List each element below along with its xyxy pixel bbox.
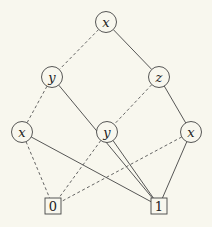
high-edge-n_y_mid-to-t_1 bbox=[113, 141, 153, 198]
decision-node-y: y bbox=[97, 122, 118, 143]
bdd-diagram: xyzxyx01 bbox=[0, 0, 212, 227]
high-edge-n_x_right-to-t_1 bbox=[162, 142, 186, 198]
high-edge-n_x_top-to-n_z_right bbox=[113, 30, 151, 70]
low-edge-n_x_left-to-t_0 bbox=[26, 142, 50, 198]
node-label: x bbox=[18, 125, 26, 140]
nodes-layer: xyzxyx01 bbox=[12, 12, 202, 215]
low-edge-n_x_right-to-t_0 bbox=[61, 137, 182, 202]
low-edge-n_y_mid-to-t_0 bbox=[59, 140, 101, 198]
node-label: y bbox=[102, 125, 111, 140]
terminal-node-1: 1 bbox=[151, 198, 167, 214]
low-edge-n_x_top-to-n_y_left bbox=[59, 29, 98, 69]
decision-node-z: z bbox=[149, 67, 170, 88]
high-edge-n_z_right-to-n_x_right bbox=[164, 86, 185, 123]
node-label: x bbox=[102, 15, 110, 30]
decision-node-y: y bbox=[42, 67, 63, 88]
low-edge-n_y_left-to-n_x_left bbox=[27, 86, 47, 123]
low-edge-n_z_right-to-n_y_mid bbox=[114, 85, 152, 125]
node-label: z bbox=[155, 70, 163, 85]
decision-node-x: x bbox=[96, 12, 117, 33]
node-label: 0 bbox=[49, 199, 57, 214]
node-label: x bbox=[187, 125, 195, 140]
decision-node-x: x bbox=[181, 122, 202, 143]
terminal-node-0: 0 bbox=[45, 198, 61, 214]
node-label: 1 bbox=[155, 199, 163, 214]
node-label: y bbox=[47, 70, 56, 85]
edges-layer bbox=[26, 29, 187, 201]
decision-node-x: x bbox=[12, 122, 33, 143]
